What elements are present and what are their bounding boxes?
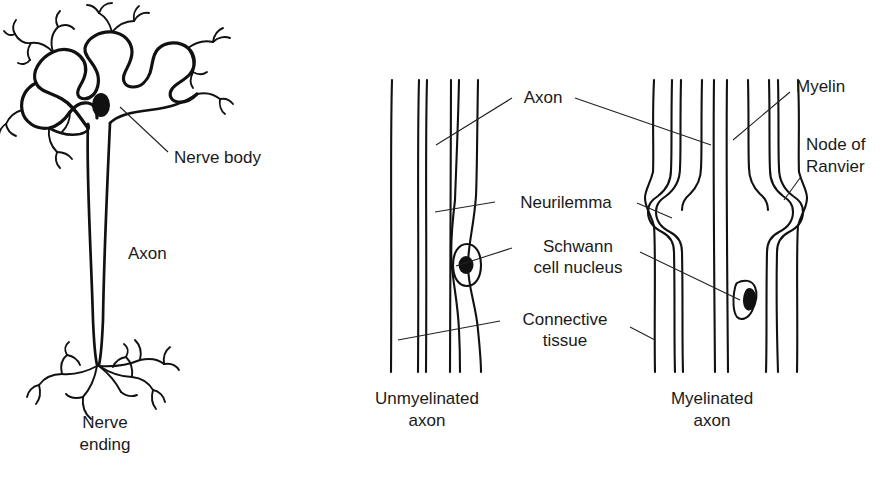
label-axon-right: Axon <box>524 88 563 107</box>
label-nerve-ending-2: ending <box>79 435 130 454</box>
label-nerve-body: Nerve body <box>174 148 261 167</box>
background <box>0 0 895 485</box>
caption-myelinated-2: axon <box>694 411 731 430</box>
label-axon-left: Axon <box>128 244 167 263</box>
label-connective-1: Connective <box>522 310 607 329</box>
label-node-1: Node of <box>806 135 866 154</box>
label-node-2: Ranvier <box>806 157 865 176</box>
nucleus <box>92 93 110 117</box>
caption-myelinated-1: Myelinated <box>671 389 753 408</box>
label-connective-2: tissue <box>543 331 587 350</box>
label-schwann-2: cell nucleus <box>534 258 623 277</box>
label-myelin: Myelin <box>796 77 845 96</box>
label-nerve-ending-1: Nerve <box>82 413 127 432</box>
caption-unmyelinated-2: axon <box>409 411 446 430</box>
caption-unmyelinated-1: Unmyelinated <box>375 389 479 408</box>
label-schwann-1: Schwann <box>543 237 613 256</box>
label-neurilemma: Neurilemma <box>520 193 612 212</box>
diagram-canvas: Nerve body Axon Nerve ending <box>0 0 895 485</box>
